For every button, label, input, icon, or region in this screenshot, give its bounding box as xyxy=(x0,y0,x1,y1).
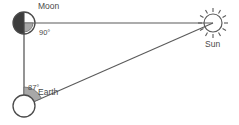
sun-ray xyxy=(219,33,221,36)
sun-ray xyxy=(223,16,226,18)
label-earth: Earth xyxy=(38,87,59,97)
celestial-bodies xyxy=(13,8,228,117)
diagram-canvas: Moon Sun Earth 90° 87° xyxy=(0,0,239,125)
label-angle-earth: 87° xyxy=(28,83,39,92)
diagram-labels: Moon Sun Earth 90° 87° xyxy=(28,1,220,97)
label-angle-moon: 90° xyxy=(39,28,50,37)
label-moon: Moon xyxy=(38,1,60,11)
astronomy-diagram: Moon Sun Earth 90° 87° xyxy=(0,0,239,125)
sun-ray xyxy=(219,10,221,13)
earth-circle-icon xyxy=(13,95,35,117)
sun-ray xyxy=(206,10,208,13)
sun-ray xyxy=(200,16,203,18)
sun-ray xyxy=(223,29,226,31)
label-sun: Sun xyxy=(205,39,220,49)
earth-outline xyxy=(13,95,35,117)
moon-shadow-half xyxy=(13,12,24,34)
sun-ray xyxy=(206,33,208,36)
